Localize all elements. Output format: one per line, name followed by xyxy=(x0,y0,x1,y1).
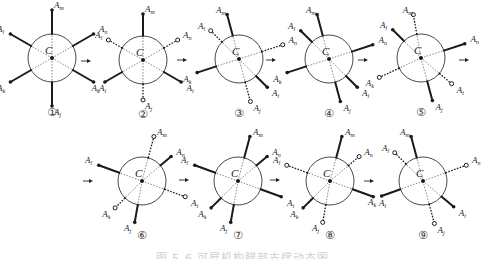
transition-arrow-icon xyxy=(177,58,187,62)
hip-joint xyxy=(72,45,74,47)
leg-label-i: Ai xyxy=(378,198,387,209)
hip-joint xyxy=(51,81,53,83)
leg-label-n: An xyxy=(363,147,373,158)
leg-label-l: Al xyxy=(84,155,93,166)
spoke-i xyxy=(142,181,165,189)
spoke-j xyxy=(239,59,245,82)
foot-n-contact-icon xyxy=(265,155,269,159)
hip-joint xyxy=(215,172,217,174)
leg-label-k: Ak xyxy=(367,197,377,208)
foot-k-contact-icon xyxy=(380,194,384,198)
spoke-k xyxy=(221,181,238,198)
center-label: C xyxy=(323,167,331,179)
leg-label-m: Am xyxy=(53,0,65,11)
center-label: C xyxy=(414,44,422,56)
step-number: ⑥ xyxy=(137,229,147,242)
center-point xyxy=(419,56,423,60)
hip-joint xyxy=(51,33,53,35)
foot-j-contact-icon xyxy=(339,100,343,104)
hip-joint xyxy=(119,172,121,174)
hip-joint xyxy=(438,73,440,75)
leg-label-m: Am xyxy=(402,5,414,16)
center-label: C xyxy=(45,44,53,56)
leg-label-m: Am xyxy=(144,4,156,15)
spoke-k xyxy=(313,181,330,198)
leg-label-i: Ai xyxy=(190,198,199,209)
leg-label-k: Ak xyxy=(272,74,282,85)
hip-joint xyxy=(405,163,407,165)
hip-joint xyxy=(255,75,257,77)
spoke-i xyxy=(329,59,346,76)
spoke-i xyxy=(143,60,164,72)
leg-i-support xyxy=(256,76,267,87)
spoke-k xyxy=(306,59,329,66)
leg-label-n: An xyxy=(470,34,480,45)
foot-l-contact-icon xyxy=(97,163,101,167)
spoke-m xyxy=(330,158,336,181)
panel-5: AmAnAiAjAkAlC⑤ xyxy=(365,5,479,119)
foot-m-contact-icon xyxy=(340,135,344,139)
leg-l-swing xyxy=(287,165,308,173)
leg-label-l: Al xyxy=(180,155,189,166)
leg-label-n: An xyxy=(378,35,388,46)
panel-7: AmAnAiAjAkAlC⑦ xyxy=(180,127,294,242)
spoke-m xyxy=(238,158,244,181)
spoke-j xyxy=(329,59,335,82)
leg-label-n: An xyxy=(182,30,192,41)
leg-m-swing xyxy=(413,15,416,35)
leg-n-support xyxy=(444,44,465,51)
step-number: ④ xyxy=(324,107,334,120)
hip-joint xyxy=(325,204,327,206)
hip-joint xyxy=(260,188,262,190)
panel-8: AmAnAiAjAkAlC⑧ xyxy=(272,127,386,242)
leg-label-j: Aj xyxy=(219,223,228,234)
foot-n-lifted-icon xyxy=(176,38,180,42)
foot-n-contact-icon xyxy=(169,155,173,159)
spoke-k xyxy=(399,58,421,68)
hip-joint xyxy=(215,66,217,68)
spoke-i xyxy=(238,181,261,189)
foot-k-contact-icon xyxy=(9,80,13,84)
leg-m-support xyxy=(227,15,233,36)
panel-4: AmAnAiAjAkAlC④ xyxy=(272,5,387,120)
gait-sequence-diagram: AmAnAiAjAkAlC①AmAnAiAjAkAlC②AmAnAiAjAkAl… xyxy=(0,0,485,259)
leg-k-support xyxy=(211,198,221,208)
hip-joint xyxy=(233,204,235,206)
hip-joint xyxy=(403,40,405,42)
transition-arrow-icon xyxy=(358,58,368,62)
hip-joint xyxy=(30,45,32,47)
foot-l-lifted-icon xyxy=(285,163,289,167)
leg-label-i: Ai xyxy=(458,208,467,219)
leg-label-i: Ai xyxy=(456,85,465,96)
foot-m-lifted-icon xyxy=(152,135,156,139)
spoke-i xyxy=(52,58,73,70)
spoke-n xyxy=(143,48,164,60)
hip-joint xyxy=(352,188,354,190)
spoke-i xyxy=(330,181,353,189)
leg-k-support xyxy=(105,72,122,82)
foot-j-contact-icon xyxy=(133,221,137,225)
step-number: ⑤ xyxy=(416,106,426,119)
foot-l-contact-icon xyxy=(9,32,13,36)
leg-i-support xyxy=(73,70,94,82)
hip-joint xyxy=(416,33,418,35)
center-point xyxy=(328,179,332,183)
panel-6: AmAnAiAjAkAlC⑥ xyxy=(84,127,198,242)
hip-joint xyxy=(221,41,223,43)
transition-arrow-icon xyxy=(81,59,91,63)
leg-j-support xyxy=(231,205,234,223)
leg-i-support xyxy=(441,196,453,206)
spoke-j xyxy=(234,181,238,205)
foot-n-contact-icon xyxy=(371,43,375,47)
leg-label-n: An xyxy=(288,35,298,46)
hip-joint xyxy=(124,197,126,199)
leg-k-support xyxy=(287,66,306,72)
hip-joint xyxy=(147,157,149,159)
hip-joint xyxy=(345,75,347,77)
foot-l-contact-icon xyxy=(391,28,395,32)
leg-label-j: Aj xyxy=(123,223,131,234)
hip-joint xyxy=(142,35,144,37)
spoke-i xyxy=(239,59,256,76)
leg-n-support xyxy=(352,45,373,52)
leg-label-i: Ai xyxy=(361,88,370,99)
